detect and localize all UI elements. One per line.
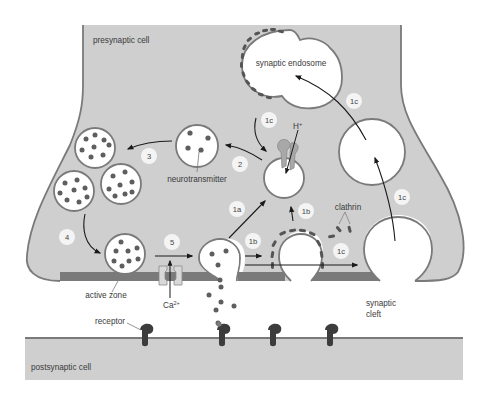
step-badge-1c-lower-right: 1c [394, 189, 410, 205]
postsynaptic-cell-label: postsynaptic cell [31, 363, 91, 372]
svg-text:1a: 1a [233, 205, 242, 214]
svg-text:1c: 1c [350, 97, 358, 106]
svg-text:1b: 1b [302, 207, 310, 216]
svg-text:3: 3 [147, 152, 151, 161]
receptor-label: receptor [95, 317, 125, 326]
presynaptic-cell-label: presynaptic cell [93, 36, 150, 45]
svg-text:1c: 1c [337, 247, 345, 256]
synaptic-cleft-label-line1: synaptic [366, 299, 396, 308]
endocytosed-vesicle-large [339, 119, 405, 185]
active-zone-label: active zone [85, 291, 127, 300]
clathrin-label: clathrin [335, 203, 362, 212]
postsynaptic-cell [25, 338, 463, 380]
synaptic-cleft-label-line2: cleft [366, 310, 382, 319]
svg-text:1b: 1b [249, 237, 257, 246]
svg-text:4: 4 [65, 233, 69, 242]
step-badge-5: 5 [164, 234, 180, 250]
svg-text:1c: 1c [398, 193, 406, 202]
synaptic-vesicle-cycle-diagram: synaptic endosome H+ neurotransmitter [0, 0, 484, 398]
calcium-label: Ca2+ [163, 300, 180, 310]
svg-text:5: 5 [170, 238, 174, 247]
step-badge-1b-upper: 1b [298, 203, 314, 219]
step-badge-1a: 1a [229, 201, 245, 217]
step-badge-2: 2 [232, 156, 248, 172]
step-badge-1c-endosome-out: 1c [261, 112, 277, 128]
step-badge-1b-lower: 1b [245, 233, 261, 249]
step-badge-1c-clathrin: 1c [333, 243, 349, 259]
svg-text:2: 2 [238, 160, 242, 169]
svg-text:1c: 1c [265, 116, 273, 125]
neurotransmitter-label: neurotransmitter [167, 175, 227, 184]
docked-vesicle [105, 234, 145, 274]
bound-neurotransmitter [216, 321, 221, 326]
step-badge-4: 4 [59, 229, 75, 245]
step-badge-1c-to-endosome: 1c [346, 93, 362, 109]
step-badge-3: 3 [141, 148, 157, 164]
synaptic-endosome-label: synaptic endosome [256, 59, 327, 68]
